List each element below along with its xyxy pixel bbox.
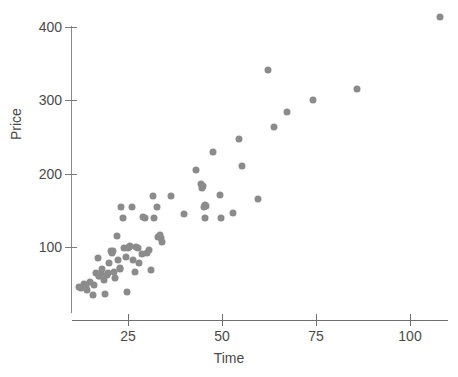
data-point: [115, 257, 122, 264]
data-point: [181, 211, 188, 218]
data-point: [151, 214, 158, 221]
scatter-plot-figure: 100200300400 255075100 Price Time: [0, 0, 458, 377]
x-axis-tick-label: 75: [308, 328, 324, 344]
x-axis-tick-label: 100: [398, 328, 421, 344]
data-point: [102, 290, 109, 297]
data-point: [167, 192, 174, 199]
data-point: [201, 214, 208, 221]
data-point: [218, 214, 225, 221]
data-point: [239, 162, 246, 169]
data-point: [158, 235, 165, 242]
y-axis-tick-label: 200: [39, 166, 62, 182]
data-point: [437, 14, 444, 21]
data-point: [140, 213, 147, 220]
data-point: [118, 203, 125, 210]
data-point: [202, 202, 209, 209]
data-point: [117, 264, 124, 271]
y-axis-tick: [65, 27, 77, 28]
data-point: [128, 203, 135, 210]
data-point: [106, 260, 113, 267]
y-axis-spine: [71, 26, 72, 313]
data-point: [122, 254, 129, 261]
x-axis-title: Time: [0, 350, 458, 366]
x-axis-tick: [222, 314, 223, 326]
data-point: [153, 203, 160, 210]
data-point: [283, 109, 290, 116]
data-point: [109, 248, 116, 255]
y-axis-tick: [65, 247, 77, 248]
data-point: [229, 210, 236, 217]
data-point: [200, 183, 207, 190]
data-point: [94, 255, 101, 262]
y-axis-tick-label: 300: [39, 92, 62, 108]
data-point: [235, 136, 242, 143]
data-point: [91, 282, 98, 289]
data-point: [119, 214, 126, 221]
x-axis-tick: [410, 314, 411, 326]
data-point: [192, 167, 199, 174]
data-point: [131, 268, 138, 275]
x-axis-tick-label: 50: [214, 328, 230, 344]
data-point: [112, 274, 119, 281]
data-point: [105, 270, 112, 277]
x-axis-tick-label: 25: [120, 328, 136, 344]
y-axis-tick: [65, 100, 77, 101]
x-axis-tick: [316, 314, 317, 326]
data-point: [264, 67, 271, 74]
data-point: [270, 124, 277, 131]
data-point: [147, 267, 154, 274]
data-point: [136, 260, 143, 267]
data-point: [354, 85, 361, 92]
data-point: [95, 272, 102, 279]
data-point: [216, 191, 223, 198]
data-point: [113, 233, 120, 240]
data-point: [146, 246, 153, 253]
data-point: [82, 282, 89, 289]
data-point: [89, 291, 96, 298]
data-point: [209, 149, 216, 156]
data-point: [255, 196, 262, 203]
y-axis-title: Price: [8, 108, 24, 140]
y-axis-tick: [65, 174, 77, 175]
x-axis-tick: [128, 314, 129, 326]
data-point: [309, 97, 316, 104]
data-point: [124, 289, 131, 296]
y-axis-tick-label: 400: [39, 19, 62, 35]
data-point: [149, 192, 156, 199]
y-axis-tick-label: 100: [39, 239, 62, 255]
data-point: [125, 244, 132, 251]
